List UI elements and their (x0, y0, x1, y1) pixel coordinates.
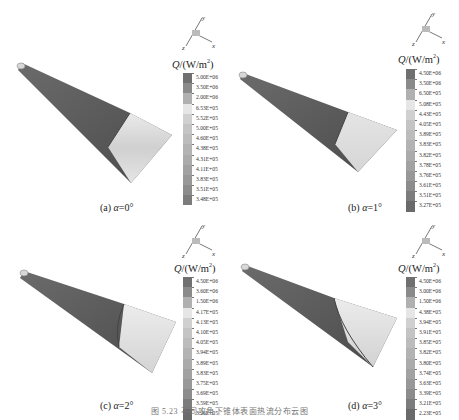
legend-value: 3.83E+05 (196, 174, 218, 184)
legend-swatch (406, 277, 415, 287)
legend-tick (192, 124, 194, 125)
legend-value: 3.50E+06 (196, 82, 218, 92)
legend-value: 4.05E+05 (196, 337, 218, 347)
legend-value: 3.76E+05 (419, 170, 441, 180)
legend-title-q: Q (174, 263, 182, 274)
legend-tick (415, 348, 417, 349)
legend-title-unit: /(W/m (406, 54, 433, 65)
legend-tick (192, 175, 194, 176)
legend-tick (192, 328, 194, 329)
legend-title-unit: /(W/m (180, 59, 207, 70)
legend-title-unit: /(W/m (182, 263, 209, 274)
legend-swatch (183, 165, 192, 175)
svg-text:x: x (441, 250, 446, 258)
svg-text:z: z (411, 252, 415, 260)
legend-swatch (406, 348, 415, 358)
legend-value: 3.82E+05 (419, 150, 441, 160)
legend-swatch (406, 287, 415, 297)
legend-swatch (406, 89, 415, 99)
legend-tick (415, 89, 417, 90)
legend-title-close: ) (210, 59, 214, 70)
axis-triad-icon: y z x (408, 220, 448, 260)
legend-tick (192, 297, 194, 298)
legend-title-q: Q (398, 263, 406, 274)
legend-tick (415, 140, 417, 141)
legend-value: 6.53E+05 (196, 103, 218, 113)
legend-value: 4.17E+05 (196, 307, 218, 317)
legend-swatch (406, 100, 415, 110)
legend-tick (415, 338, 417, 339)
legend-title-close: ) (436, 54, 440, 65)
legend-tick (192, 399, 194, 400)
legend-swatch (183, 308, 192, 318)
legend-tick (415, 297, 417, 298)
axis-triad-icon: y z x (178, 12, 218, 52)
legend-value: 3.80E+05 (419, 358, 441, 368)
legend-swatch (406, 130, 415, 140)
legend-tick (415, 151, 417, 152)
legend-swatch (183, 73, 192, 83)
legend-tick (415, 287, 417, 288)
legend-tick (415, 389, 417, 390)
legend-tick (192, 134, 194, 135)
legend-value: 3.94E+05 (196, 347, 218, 357)
svg-text:y: y (201, 14, 206, 22)
legend-value: 3.85E+05 (419, 337, 441, 347)
legend-title-close: ) (436, 263, 440, 274)
legend-tick (192, 195, 194, 196)
legend-tick (192, 114, 194, 115)
legend-value: 4.13E+05 (196, 317, 218, 327)
legend-swatch (406, 151, 415, 161)
legend-value: 3.83E+05 (419, 139, 441, 149)
legend-tick (192, 144, 194, 145)
legend-swatch (183, 318, 192, 328)
legend-swatch (183, 389, 192, 399)
legend-swatch (406, 191, 415, 201)
legend-value: 6.50E+05 (419, 88, 441, 98)
legend-swatch (183, 104, 192, 114)
legend-title-unit: /(W/m (406, 263, 433, 274)
legend-value: 3.48E+05 (196, 194, 218, 204)
legend-tick (192, 277, 194, 278)
legend-swatch (406, 359, 415, 369)
legend-value: 4.10E+05 (196, 327, 218, 337)
legend-swatch (183, 83, 192, 93)
legend-swatch (183, 277, 192, 287)
legend-value: 1.50E+06 (419, 296, 441, 306)
legend-value: 4.50E+06 (419, 276, 441, 286)
svg-text:z: z (181, 252, 185, 260)
legend-tick (192, 185, 194, 186)
svg-text:z: z (411, 40, 415, 48)
legend-swatch (183, 134, 192, 144)
legend-swatch (183, 297, 192, 307)
legend-swatch (406, 379, 415, 389)
legend-tick (415, 120, 417, 121)
legend-swatch (406, 140, 415, 150)
axis-triad-icon: y z x (178, 220, 218, 260)
legend-tick (415, 191, 417, 192)
legend-tick (415, 161, 417, 162)
legend-tick (192, 348, 194, 349)
legend-tick (192, 73, 194, 74)
legend-tick (192, 308, 194, 309)
figure-caption: 图 5.23 不同攻角下锥体表面热流分布云图 (0, 405, 459, 416)
legend-swatch (183, 379, 192, 389)
legend-value: 3.27E+05 (419, 200, 441, 210)
legend-value: 3.69E+05 (196, 388, 218, 398)
legend-value: 5.08E+05 (419, 99, 441, 109)
legend-swatch (406, 120, 415, 130)
legend-tick (415, 201, 417, 202)
legend-value: 4.38E+05 (419, 307, 441, 317)
legend-swatch (183, 287, 192, 297)
legend-tick (415, 110, 417, 111)
legend-swatch (183, 144, 192, 154)
legend-swatch (406, 318, 415, 328)
legend-tick (415, 181, 417, 182)
legend-value: 3.91E+05 (419, 327, 441, 337)
legend-tick (192, 93, 194, 94)
panel-a: y z x Q/(W/m2) 5.00E+063.50E+062.00E+066… (0, 0, 229, 200)
legend-swatch (183, 114, 192, 124)
legend-value: 4.60E+05 (196, 133, 218, 143)
legend-swatch (406, 308, 415, 318)
legend-value: 3.82E+05 (419, 347, 441, 357)
